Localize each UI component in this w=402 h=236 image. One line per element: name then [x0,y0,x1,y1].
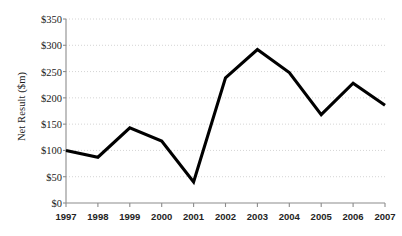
x-tick-label: 2004 [279,211,300,222]
y-tick-label: $0 [24,198,62,209]
plot-svg [66,19,385,203]
x-tick-label: 1999 [119,211,140,222]
axis-group [63,19,385,207]
y-axis-tick-labels: $0$50$100$150$200$250$300$350 [24,0,62,236]
x-tick-label: 2003 [247,211,268,222]
x-tick-label: 2006 [343,211,364,222]
y-tick-label: $200 [24,92,62,103]
line-chart-figure: Net Result ($m) $0$50$100$150$200$250$30… [0,0,402,236]
x-tick-label: 2000 [151,211,172,222]
x-tick-label: 2007 [374,211,395,222]
y-tick-label: $100 [24,145,62,156]
y-tick-label: $250 [24,66,62,77]
x-tick-label: 2002 [215,211,236,222]
y-tick-label: $150 [24,119,62,130]
x-tick-label: 2005 [311,211,332,222]
x-tick-label: 2001 [183,211,204,222]
y-tick-label: $50 [24,171,62,182]
x-tick-label: 1998 [87,211,108,222]
series-group [66,49,385,181]
y-tick-label: $350 [24,14,62,25]
y-tick-label: $300 [24,40,62,51]
series-line-net-result [66,49,385,181]
plot-area [66,19,385,203]
